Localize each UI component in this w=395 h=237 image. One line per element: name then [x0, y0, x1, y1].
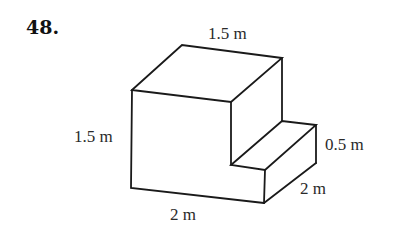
- label-top-depth: 1.5 m: [208, 25, 247, 42]
- step-front-edge: [264, 170, 265, 203]
- diagram-canvas: 48. 1.5 m 1.5 m 0.5 m 2 m 2 m: [0, 0, 395, 237]
- label-bottom-width: 2 m: [170, 206, 196, 223]
- label-step-depth: 2 m: [300, 180, 326, 197]
- top-face: [132, 45, 282, 102]
- label-front-height: 1.5 m: [74, 128, 113, 145]
- front-face-outline: [131, 90, 264, 203]
- step-block-figure: [0, 0, 395, 237]
- label-step-height: 0.5 m: [325, 136, 364, 153]
- step-top-face: [231, 121, 316, 170]
